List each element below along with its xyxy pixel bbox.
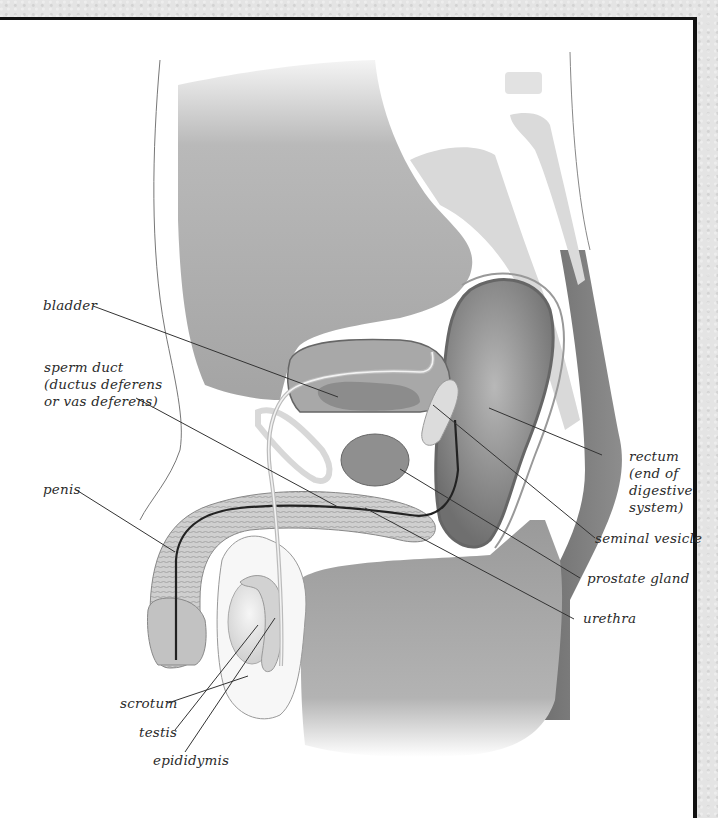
label-urethra: urethra bbox=[583, 610, 636, 627]
label-penis: penis bbox=[43, 481, 81, 498]
abdominal-wall-line bbox=[140, 60, 181, 520]
label-scrotum: scrotum bbox=[120, 695, 177, 712]
prostate bbox=[341, 434, 409, 486]
vertebra bbox=[505, 72, 542, 94]
label-epididymis: epididymis bbox=[153, 752, 229, 769]
thigh bbox=[301, 520, 562, 757]
label-testis: testis bbox=[139, 724, 177, 741]
label-rectum: rectum (end of digestive system) bbox=[629, 448, 693, 516]
label-seminal-vesicle: seminal vesicle bbox=[595, 530, 702, 547]
rectum bbox=[436, 280, 553, 547]
label-prostate-gland: prostate gland bbox=[587, 570, 689, 587]
label-sperm-duct: sperm duct (ductus deferens or vas defer… bbox=[44, 359, 162, 410]
label-bladder: bladder bbox=[43, 297, 97, 314]
spine-outline bbox=[570, 52, 590, 250]
